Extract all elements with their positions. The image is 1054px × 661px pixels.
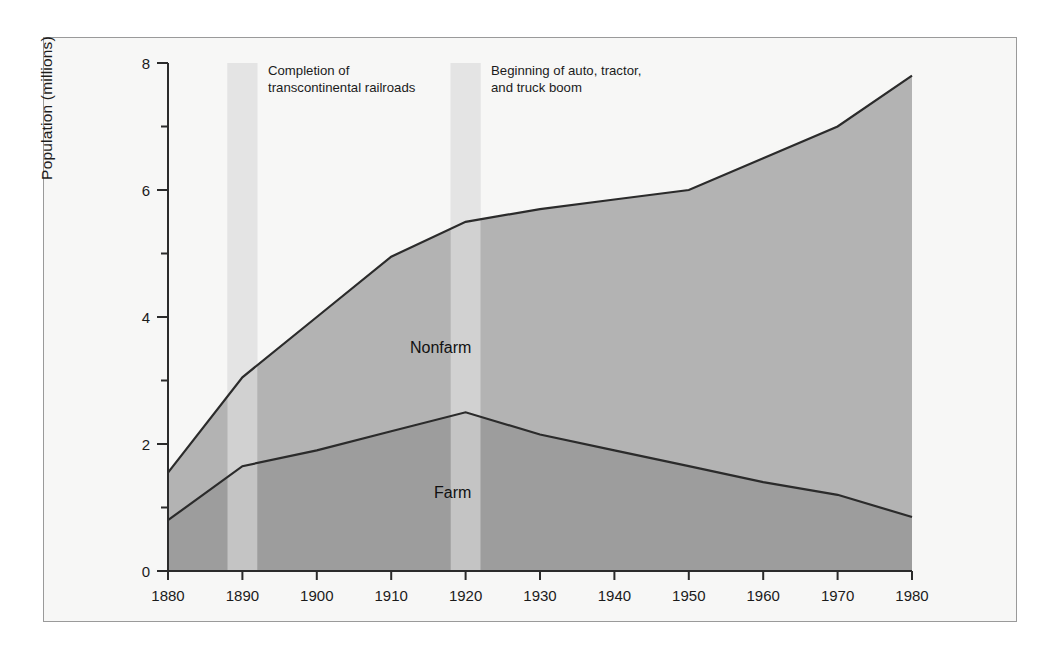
chart-svg: 02468 1880189019001910192019301940195019… <box>44 38 1018 623</box>
x-tick-label-1880: 1880 <box>151 587 184 604</box>
x-tick-label-1940: 1940 <box>598 587 631 604</box>
figure-panel: Population (millions) 02468 188018901900… <box>43 37 1017 622</box>
x-tick-label-1970: 1970 <box>821 587 854 604</box>
y-tick-label-8: 8 <box>142 55 150 72</box>
y-tick-label-4: 4 <box>142 309 150 326</box>
x-tick-label-1900: 1900 <box>300 587 333 604</box>
x-tick-label-1960: 1960 <box>747 587 780 604</box>
y-tick-label-0: 0 <box>142 563 150 580</box>
chart-plot-area: Population (millions) 02468 188018901900… <box>44 38 1016 621</box>
y-tick-label-6: 6 <box>142 182 150 199</box>
annotation-text-transcontinental-railroads: Completion of transcontinental railroads <box>268 63 415 96</box>
x-tick-label-1890: 1890 <box>226 587 259 604</box>
y-axis-ticks: 02468 <box>142 55 168 580</box>
x-tick-label-1980: 1980 <box>895 587 928 604</box>
series-label-nonfarm: Nonfarm <box>410 339 471 356</box>
x-tick-label-1930: 1930 <box>523 587 556 604</box>
y-tick-label-2: 2 <box>142 436 150 453</box>
annotation-text-auto-tractor-truck-boom: Beginning of auto, tractor, and truck bo… <box>491 63 641 96</box>
series-label-farm: Farm <box>434 484 471 501</box>
annotation-band-overlay-1 <box>228 63 258 571</box>
x-tick-label-1910: 1910 <box>375 587 408 604</box>
x-tick-label-1950: 1950 <box>672 587 705 604</box>
x-tick-label-1920: 1920 <box>449 587 482 604</box>
x-axis-ticks: 1880189019001910192019301940195019601970… <box>151 571 928 604</box>
